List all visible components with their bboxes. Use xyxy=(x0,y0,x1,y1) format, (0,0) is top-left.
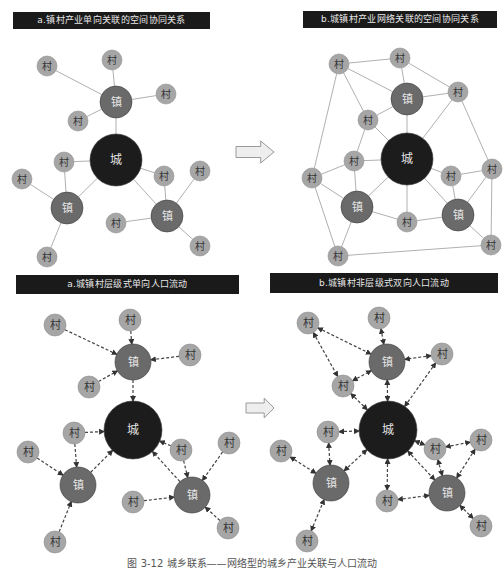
edge xyxy=(446,442,470,447)
village-node: 村 xyxy=(328,246,348,266)
edge xyxy=(364,160,381,161)
village-node: 村 xyxy=(448,82,468,102)
village-node: 村 xyxy=(218,432,240,454)
svg-text:村: 村 xyxy=(111,217,121,229)
edge xyxy=(377,107,393,116)
edges-layer xyxy=(30,59,491,532)
edge xyxy=(202,452,222,480)
village-node: 村 xyxy=(302,168,322,188)
village-node: 村 xyxy=(154,166,174,186)
edge xyxy=(151,356,179,359)
village-node: 村 xyxy=(297,312,319,334)
svg-text:村: 村 xyxy=(195,240,205,252)
village-node: 村 xyxy=(78,376,100,398)
edge xyxy=(126,218,151,221)
village-node: 村 xyxy=(12,169,32,189)
village-node: 村 xyxy=(190,236,210,256)
village-node: 村 xyxy=(390,48,410,68)
edge xyxy=(144,497,174,501)
svg-text:村: 村 xyxy=(323,425,334,439)
svg-text:镇: 镇 xyxy=(162,209,173,223)
edge xyxy=(491,179,492,235)
village-node: 村 xyxy=(431,343,453,365)
village-node: 村 xyxy=(179,344,201,366)
edge xyxy=(438,460,442,476)
network-diagrams: 城镇镇镇村村村村村村村村村村村城镇镇镇村村村村村村村村村村村城镇镇镇村村村村村村… xyxy=(0,0,504,570)
edge xyxy=(56,71,102,95)
village-node: 村 xyxy=(44,531,66,553)
svg-text:村: 村 xyxy=(382,494,393,508)
town-node: 镇 xyxy=(100,86,132,118)
nodes-bottom-left: 城镇镇镇村村村村村村村村村村村 xyxy=(17,309,240,553)
village-node: 村 xyxy=(156,84,176,104)
svg-text:村: 村 xyxy=(161,88,171,100)
edge xyxy=(457,449,475,478)
edge xyxy=(468,177,487,202)
edge xyxy=(339,431,359,432)
edge xyxy=(405,363,436,406)
nodes-bottom-right: 城镇镇镇村村村村村村村村村村村 xyxy=(270,307,492,552)
svg-text:镇: 镇 xyxy=(453,208,464,222)
edge xyxy=(460,506,473,519)
svg-text:村: 村 xyxy=(17,173,27,185)
svg-text:城: 城 xyxy=(127,423,139,437)
svg-text:村: 村 xyxy=(437,347,448,361)
edge xyxy=(381,329,384,344)
transition-arrows xyxy=(236,141,274,418)
edge xyxy=(355,171,356,191)
svg-text:村: 村 xyxy=(185,348,196,362)
edge xyxy=(160,441,171,446)
edge xyxy=(313,333,337,377)
edge xyxy=(85,431,104,432)
edge xyxy=(344,73,364,111)
edge xyxy=(311,500,324,531)
svg-text:村: 村 xyxy=(430,442,441,456)
svg-text:镇: 镇 xyxy=(111,95,122,109)
edge xyxy=(353,371,372,381)
edge xyxy=(431,168,441,172)
svg-text:村: 村 xyxy=(476,519,487,533)
edge xyxy=(205,507,220,520)
village-node: 村 xyxy=(102,50,122,70)
nodes-top-left: 城镇镇镇村村村村村村村村村村村 xyxy=(12,50,210,267)
edge xyxy=(405,356,431,360)
edge xyxy=(417,217,442,220)
city-node: 城 xyxy=(359,401,417,459)
edge xyxy=(65,172,66,192)
village-node: 村 xyxy=(17,441,39,463)
edge xyxy=(184,461,188,478)
edge xyxy=(398,495,429,499)
svg-text:镇: 镇 xyxy=(62,201,73,215)
svg-text:村: 村 xyxy=(223,521,234,535)
edge xyxy=(415,441,425,445)
city-node: 城 xyxy=(90,134,142,186)
edge xyxy=(342,222,352,247)
svg-text:村: 村 xyxy=(486,239,496,251)
village-node: 村 xyxy=(296,530,318,552)
svg-text:村: 村 xyxy=(276,444,287,458)
village-node: 村 xyxy=(37,247,57,267)
nodes-top-right: 城镇镇镇村村村村村村村村村村村 xyxy=(302,48,502,266)
svg-text:镇: 镇 xyxy=(187,488,198,502)
svg-text:村: 村 xyxy=(128,495,139,509)
svg-text:村: 村 xyxy=(453,86,463,98)
svg-text:村: 村 xyxy=(307,172,317,184)
svg-text:村: 村 xyxy=(487,163,497,175)
edge xyxy=(423,100,452,138)
village-node: 村 xyxy=(217,517,239,539)
edge xyxy=(132,96,156,100)
edge xyxy=(462,101,488,160)
svg-text:村: 村 xyxy=(349,155,359,167)
svg-text:村: 村 xyxy=(125,313,136,327)
edge xyxy=(65,330,117,355)
svg-text:城: 城 xyxy=(401,152,413,166)
svg-text:镇: 镇 xyxy=(442,486,453,500)
town-node: 镇 xyxy=(391,83,423,115)
svg-text:村: 村 xyxy=(69,426,80,440)
village-node: 村 xyxy=(317,421,339,443)
svg-text:村: 村 xyxy=(333,250,343,262)
svg-text:村: 村 xyxy=(395,52,405,64)
village-node: 村 xyxy=(368,307,390,329)
svg-text:村: 村 xyxy=(107,54,117,66)
town-node: 镇 xyxy=(341,191,373,223)
